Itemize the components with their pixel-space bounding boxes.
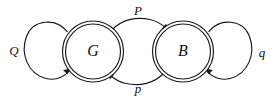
state-node-b[interactable]: B xyxy=(153,21,214,82)
edge-label-p-lowercase: p xyxy=(134,81,142,96)
edge-label-q-uppercase: Q xyxy=(9,43,19,58)
state-diagram-svg: G B Q P p q xyxy=(0,0,275,100)
state-b-label: B xyxy=(178,42,188,59)
state-node-g[interactable]: G xyxy=(63,21,124,82)
edge-path-g-to-b xyxy=(113,18,168,29)
edge-label-q-lowercase: q xyxy=(259,45,266,60)
edge-label-p-uppercase: P xyxy=(133,3,142,18)
state-g-label: G xyxy=(87,42,99,59)
state-diagram-canvas: G B Q P p q xyxy=(0,0,275,100)
